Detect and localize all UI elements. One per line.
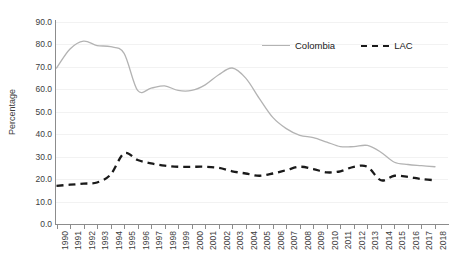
solid-line-swatch: [262, 45, 290, 46]
line-chart: Percentage 90.080.070.060.050.040.030.02…: [0, 0, 454, 276]
legend-item-lac[interactable]: LAC: [361, 40, 412, 51]
legend-label-colombia: Colombia: [295, 40, 335, 51]
dashed-line-swatch: [361, 45, 389, 47]
legend-item-colombia[interactable]: Colombia: [262, 40, 335, 51]
series-line-colombia: [57, 41, 435, 167]
legend-label-lac: LAC: [394, 40, 412, 51]
chart-legend: Colombia LAC: [262, 40, 413, 51]
series-line-lac: [57, 153, 435, 186]
